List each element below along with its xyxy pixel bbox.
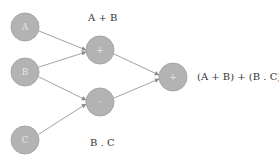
- output-label: (A + B) + (B . C): [197, 71, 279, 82]
- edge-c-to-prod: [39, 104, 86, 134]
- node-a-label: A: [21, 22, 29, 32]
- node-output: +: [159, 63, 187, 91]
- edge-a-to-sum: [39, 31, 86, 50]
- node-c-label: C: [22, 135, 29, 145]
- node-b: B: [11, 58, 39, 86]
- edge-prod-to-out: [114, 79, 159, 98]
- edge-b-to-prod: [39, 77, 86, 100]
- sum-label: A + B: [87, 12, 117, 23]
- node-b-label: B: [22, 67, 29, 77]
- diagram-canvas: A B C + · + A + B B . C (A + B) + (B . C…: [0, 0, 279, 159]
- node-c: C: [11, 126, 39, 154]
- node-sum-symbol: +: [96, 45, 104, 55]
- edge-sum-to-out: [114, 54, 159, 75]
- prod-label: B . C: [90, 137, 115, 148]
- node-sum: +: [86, 36, 114, 64]
- node-a: A: [11, 13, 39, 41]
- node-output-symbol: +: [169, 72, 177, 82]
- edge-b-to-sum: [39, 52, 86, 67]
- node-prod-symbol: ·: [99, 97, 102, 107]
- node-prod: ·: [86, 88, 114, 116]
